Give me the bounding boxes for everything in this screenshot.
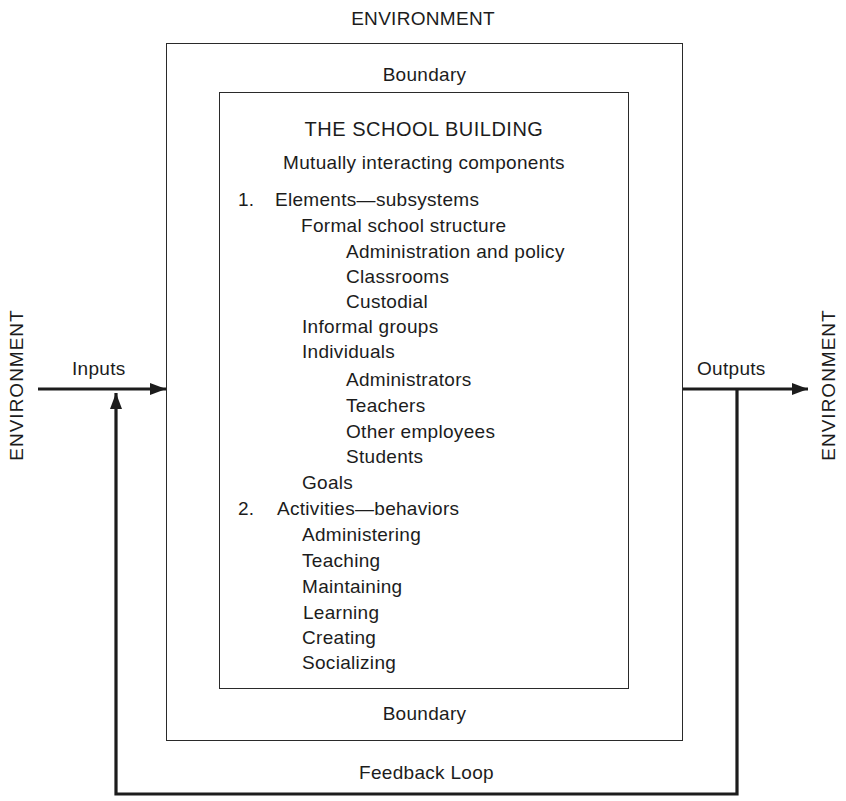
- environment-label-right: ENVIRONMENT: [818, 295, 840, 475]
- list-item: Creating: [302, 627, 376, 649]
- group-label: Formal school structure: [301, 215, 506, 237]
- group-label: Goals: [302, 472, 353, 494]
- environment-label-left: ENVIRONMENT: [6, 295, 28, 475]
- group-label: Informal groups: [302, 316, 439, 338]
- list-item: Administration and policy: [346, 241, 565, 263]
- section-heading: Elements—subsystems: [275, 189, 479, 211]
- boundary-label-bottom: Boundary: [166, 703, 683, 725]
- inputs-label: Inputs: [72, 358, 126, 380]
- list-item: Administering: [302, 524, 421, 546]
- section-heading: Activities—behaviors: [277, 498, 459, 520]
- section-number: 2.: [238, 498, 254, 520]
- list-item: Teaching: [302, 550, 380, 572]
- list-item: Teachers: [346, 395, 426, 417]
- boundary-label-top: Boundary: [166, 64, 683, 86]
- school-building-title: THE SCHOOL BUILDING: [219, 118, 629, 141]
- feedback-loop-label: Feedback Loop: [116, 762, 737, 784]
- list-item: Maintaining: [302, 576, 402, 598]
- list-item: Students: [346, 446, 423, 468]
- environment-label-top: ENVIRONMENT: [0, 8, 846, 30]
- list-item: Other employees: [346, 421, 495, 443]
- list-item: Custodial: [346, 291, 428, 313]
- list-item: Learning: [303, 602, 379, 624]
- group-label: Individuals: [302, 341, 395, 363]
- list-item: Classrooms: [346, 266, 449, 288]
- list-item: Administrators: [346, 369, 472, 391]
- section-number: 1.: [238, 189, 254, 211]
- list-item: Socializing: [302, 652, 396, 674]
- outputs-label: Outputs: [697, 358, 766, 380]
- school-building-subtitle: Mutually interacting components: [219, 152, 629, 174]
